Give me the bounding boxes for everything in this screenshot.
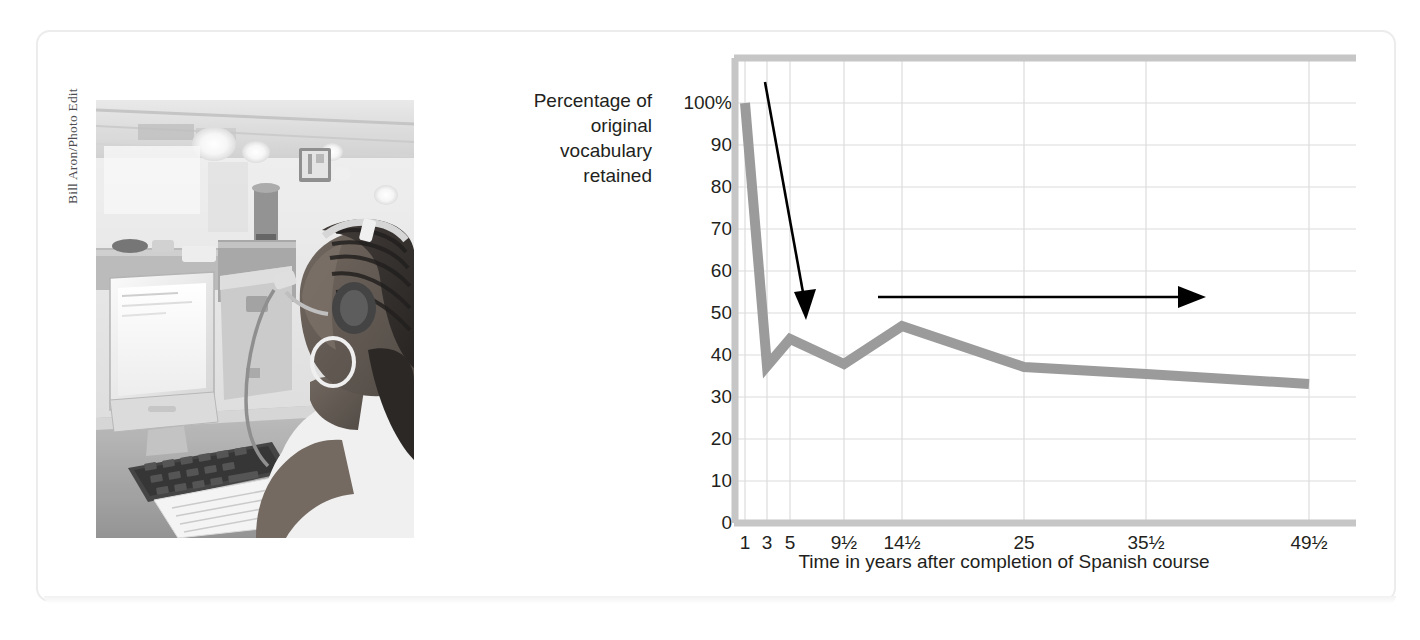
x-tick-1-label: 1 — [740, 532, 751, 553]
x-tick-3-label: 3 — [762, 532, 773, 553]
figure-frame-shadow — [44, 596, 1396, 604]
x-tick-5-label: 5 — [785, 532, 796, 553]
x-tick-9-half-label: 9½ — [831, 532, 857, 553]
photo-credit: Bill Aron/Photo Edit — [65, 54, 81, 204]
photo-block: Bill Aron/Photo Edit — [96, 100, 414, 538]
lab-photograph — [96, 100, 414, 538]
x-tick-25-label: 25 — [1013, 532, 1034, 553]
photo-image — [96, 100, 414, 538]
x-tick-49-half-label: 49½ — [1291, 532, 1328, 553]
plot-area — [494, 46, 1374, 546]
x-tick-14-half-label: 14½ — [884, 532, 921, 553]
retention-chart: Percentage of original vocabulary retain… — [494, 46, 1374, 586]
x-axis-title: Time in years after completion of Spanis… — [654, 551, 1354, 573]
x-tick-35-half-label: 35½ — [1128, 532, 1165, 553]
figure-page: Bill Aron/Photo Edit — [0, 0, 1420, 640]
